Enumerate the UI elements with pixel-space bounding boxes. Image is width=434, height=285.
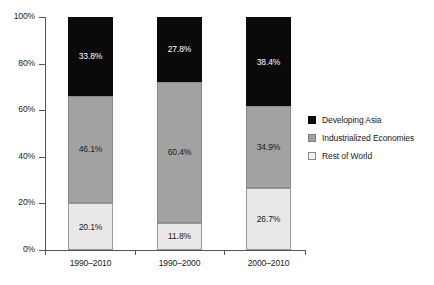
bar-segment-label: 26.7% (257, 214, 281, 224)
bar-segment-label: 38.4% (257, 57, 281, 67)
bar-segment[interactable]: 20.1% (68, 203, 113, 250)
bar-segment[interactable]: 60.4% (157, 82, 202, 223)
bar-segment[interactable]: 33.8% (68, 17, 113, 96)
y-axis-tick-label: 60% (0, 105, 35, 114)
x-axis-tick-label: 2000–2010 (224, 258, 314, 268)
legend-item[interactable]: Developing Asia (308, 112, 414, 127)
bar-segment-label: 46.1% (79, 144, 103, 154)
x-axis-tick-label: 1990–2010 (46, 258, 136, 268)
bar-segment[interactable]: 46.1% (68, 96, 113, 203)
x-axis-line (45, 250, 306, 251)
legend-swatch-icon (308, 134, 316, 142)
bar-segment-label: 33.8% (79, 51, 103, 61)
x-axis-tick (45, 250, 46, 255)
legend-item-label: Developing Asia (322, 115, 381, 125)
legend-item[interactable]: Rest of World (308, 148, 414, 163)
bar-segment-label: 60.4% (168, 147, 192, 157)
y-axis-tick-label: 20% (0, 198, 35, 207)
legend-item-label: Industrialized Economies (322, 133, 414, 143)
legend-item[interactable]: Industrialized Economies (308, 130, 414, 145)
chart-legend: Developing AsiaIndustrialized EconomiesR… (308, 112, 414, 166)
legend-swatch-icon (308, 152, 316, 160)
bar-segment-label: 20.1% (79, 222, 103, 232)
stacked-bar-chart: 0%20%40%60%80%100% 33.8%46.1%20.1%27.8%6… (0, 0, 434, 285)
bar-group[interactable]: 38.4%34.9%26.7% (246, 17, 291, 250)
bar-group[interactable]: 27.8%60.4%11.8% (157, 17, 202, 250)
bar-segment[interactable]: 38.4% (246, 17, 291, 106)
y-axis-tick-label: 40% (0, 152, 35, 161)
bar-segment[interactable]: 27.8% (157, 17, 202, 82)
bar-segment-label: 27.8% (168, 44, 192, 54)
legend-swatch-icon (308, 116, 316, 124)
y-axis-tick-label: 80% (0, 59, 35, 68)
x-axis-tick (224, 250, 225, 255)
x-axis-tick (305, 250, 306, 255)
x-axis-tick-label: 1990–2000 (135, 258, 225, 268)
plot-area: 33.8%46.1%20.1%27.8%60.4%11.8%38.4%34.9%… (45, 17, 305, 250)
y-axis-tick-label: 0% (0, 245, 35, 254)
bar-segment-label: 11.8% (168, 231, 191, 241)
bar-segment-label: 34.9% (257, 142, 281, 152)
x-axis-tick (135, 250, 136, 255)
legend-item-label: Rest of World (322, 151, 372, 161)
bar-segment[interactable]: 26.7% (246, 188, 291, 250)
y-axis-tick-label: 100% (0, 12, 35, 21)
bar-group[interactable]: 33.8%46.1%20.1% (68, 17, 113, 250)
bar-segment[interactable]: 34.9% (246, 106, 291, 187)
bar-segment[interactable]: 11.8% (157, 223, 202, 250)
